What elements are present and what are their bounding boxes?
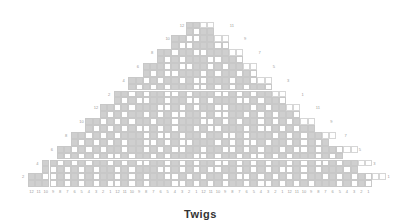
pattern-cell <box>171 160 178 167</box>
pattern-cell <box>136 91 143 98</box>
pattern-cell <box>315 180 322 187</box>
pattern-cell <box>214 49 221 56</box>
pattern-cell <box>157 125 164 132</box>
pattern-cell <box>222 139 229 146</box>
column-label: 6 <box>243 189 250 194</box>
pattern-cell <box>300 118 307 125</box>
pattern-cell <box>265 91 272 98</box>
pattern-cell <box>186 104 193 111</box>
pattern-cell <box>250 180 257 187</box>
pattern-cell <box>250 70 257 77</box>
pattern-cell <box>257 180 264 187</box>
pattern-cell <box>329 160 336 167</box>
pattern-cell <box>136 111 143 118</box>
pattern-cell <box>265 77 272 84</box>
pattern-cell <box>293 180 300 187</box>
pattern-cell <box>128 125 135 132</box>
pattern-cell <box>200 104 207 111</box>
pattern-cell <box>351 173 358 180</box>
pattern-cell <box>207 153 214 160</box>
column-label: 2 <box>272 189 279 194</box>
pattern-cell <box>272 104 279 111</box>
pattern-cell <box>265 125 272 132</box>
pattern-cell <box>179 77 186 84</box>
row-label-right: 3 <box>373 161 375 166</box>
pattern-cell <box>143 146 150 153</box>
pattern-cell <box>28 180 35 187</box>
pattern-cell <box>71 146 78 153</box>
pattern-cell <box>143 153 150 160</box>
pattern-cell <box>186 63 193 70</box>
pattern-cell <box>343 180 350 187</box>
pattern-cell <box>143 139 150 146</box>
pattern-cell <box>200 77 207 84</box>
pattern-cell <box>193 22 200 29</box>
pattern-cell <box>186 97 193 104</box>
column-label: 9 <box>50 189 57 194</box>
row-label-right: 7 <box>258 50 260 55</box>
pattern-cell <box>121 132 128 139</box>
row-label-right: 5 <box>273 64 275 69</box>
pattern-cell <box>243 97 250 104</box>
pattern-cell <box>150 132 157 139</box>
row-label-left: 4 <box>122 78 124 83</box>
pattern-cell <box>100 153 107 160</box>
pattern-cell <box>143 70 150 77</box>
column-label: 7 <box>322 189 329 194</box>
pattern-cell <box>222 125 229 132</box>
pattern-cell <box>243 63 250 70</box>
pattern-cell <box>179 180 186 187</box>
pattern-cell <box>222 49 229 56</box>
pattern-cell <box>200 111 207 118</box>
column-label: 2 <box>186 189 193 194</box>
pattern-cell <box>358 160 365 167</box>
pattern-cell <box>128 180 135 187</box>
pattern-cell <box>200 28 207 35</box>
pattern-cell <box>229 173 236 180</box>
pattern-cell <box>193 173 200 180</box>
pattern-cell <box>93 125 100 132</box>
pattern-cell <box>329 180 336 187</box>
pattern-cell <box>293 146 300 153</box>
pattern-cell <box>114 166 121 173</box>
pattern-cell <box>107 166 114 173</box>
pattern-cell <box>150 84 157 91</box>
pattern-cell <box>200 22 207 29</box>
pattern-cell <box>315 146 322 153</box>
pattern-cell <box>128 111 135 118</box>
pattern-cell <box>179 166 186 173</box>
pattern-cell <box>157 63 164 70</box>
pattern-cell <box>272 160 279 167</box>
column-label: 8 <box>229 189 236 194</box>
pattern-cell <box>128 173 135 180</box>
pattern-cell <box>100 173 107 180</box>
pattern-cell <box>186 28 193 35</box>
pattern-cell <box>164 56 171 63</box>
pattern-cell <box>286 173 293 180</box>
column-label: 1 <box>193 189 200 194</box>
pattern-cell <box>236 104 243 111</box>
pattern-cell <box>121 118 128 125</box>
pattern-cell <box>64 146 71 153</box>
pattern-cell <box>207 97 214 104</box>
pattern-cell <box>229 125 236 132</box>
pattern-cell <box>64 180 71 187</box>
column-label: 5 <box>336 189 343 194</box>
column-label: 10 <box>128 189 135 194</box>
pattern-cell <box>207 146 214 153</box>
pattern-cell <box>207 22 214 29</box>
column-label: 12 <box>114 189 121 194</box>
pattern-cell <box>100 104 107 111</box>
pattern-cell <box>207 49 214 56</box>
column-label: 3 <box>179 189 186 194</box>
pattern-cell <box>164 70 171 77</box>
pattern-cell <box>193 153 200 160</box>
pattern-cell <box>214 42 221 49</box>
pattern-cell <box>214 125 221 132</box>
pattern-cell <box>93 146 100 153</box>
pattern-cell <box>229 104 236 111</box>
pattern-cell <box>107 146 114 153</box>
pattern-cell <box>193 160 200 167</box>
row-label-right: 9 <box>244 36 246 41</box>
pattern-cell <box>236 160 243 167</box>
